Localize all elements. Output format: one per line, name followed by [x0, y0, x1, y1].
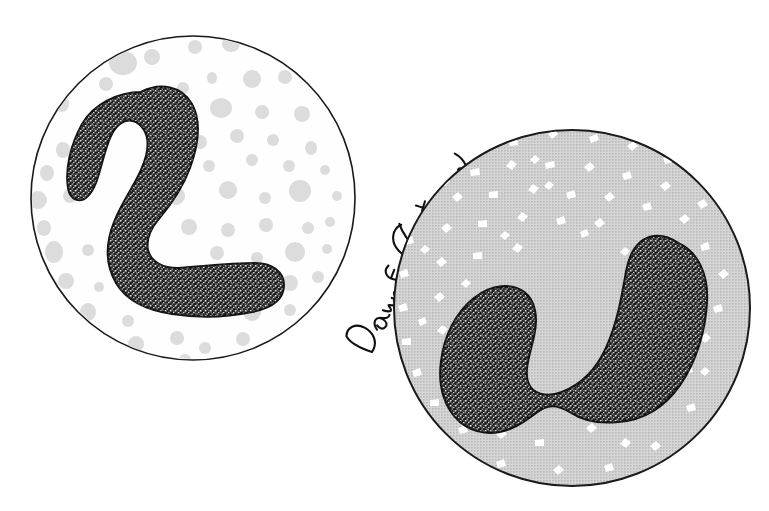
figure-root: Dawn E. Christenson [0, 0, 769, 511]
cell-right[interactable] [394, 129, 750, 486]
cell-left[interactable] [29, 36, 355, 366]
illustration-canvas: Dawn E. Christenson [0, 0, 769, 511]
